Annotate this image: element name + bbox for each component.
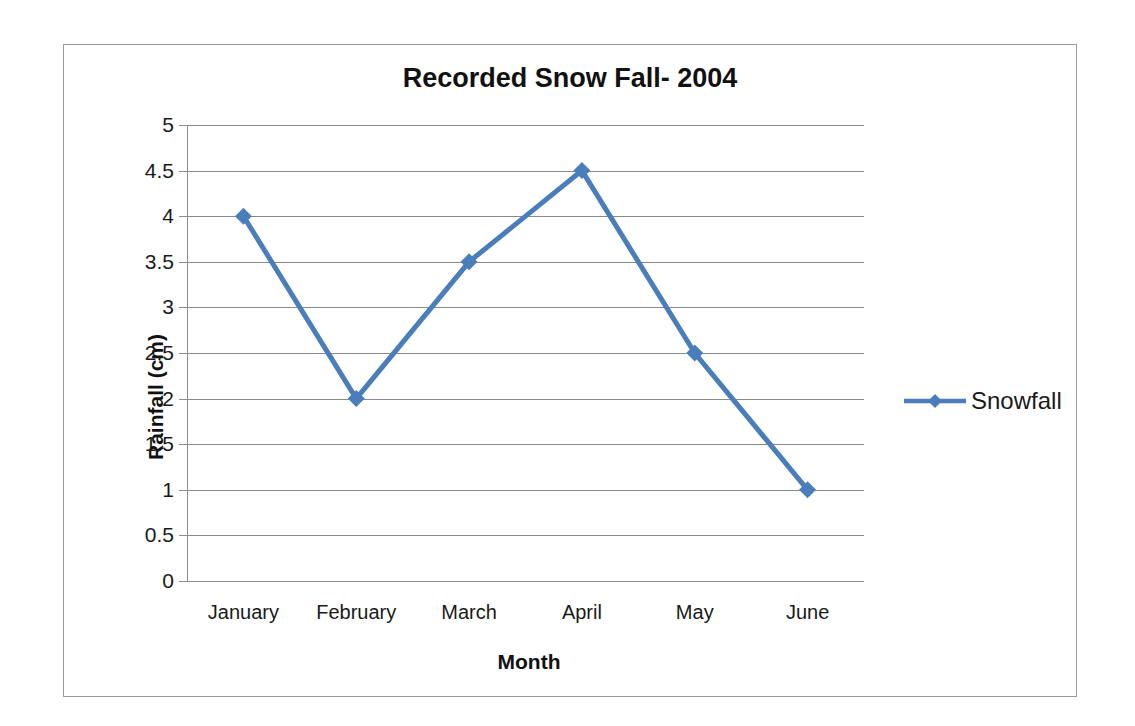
y-axis-tick-label: 1 (162, 478, 174, 502)
y-axis-tick (179, 171, 188, 172)
gridline (187, 490, 864, 491)
y-axis-tick-label: 4 (162, 204, 174, 228)
x-axis-tick-label: April (562, 601, 602, 624)
y-axis-tick (179, 125, 188, 126)
y-axis-tick (179, 535, 188, 536)
chart-page: { "chart_data": { "type": "line", "title… (0, 0, 1135, 726)
y-axis-tick-label: 4.5 (145, 159, 174, 183)
x-axis-line (187, 581, 864, 582)
y-axis-tick (179, 444, 188, 445)
gridline (187, 399, 864, 400)
gridline (187, 353, 864, 354)
y-axis-tick-label: 3.5 (145, 250, 174, 274)
x-axis-tick-label: February (316, 601, 396, 624)
legend-marker-snowfall (904, 391, 966, 411)
y-axis-tick-label: 0 (162, 569, 174, 593)
y-axis-tick (179, 581, 188, 582)
gridline (187, 125, 864, 126)
gridline (187, 307, 864, 308)
legend: Snowfall (904, 387, 1062, 415)
y-axis-tick-label: 3 (162, 295, 174, 319)
series-line (243, 171, 807, 490)
y-axis-tick-label: 0.5 (145, 523, 174, 547)
y-axis-tick-label: 2.5 (145, 341, 174, 365)
y-axis-tick (179, 307, 188, 308)
gridline (187, 216, 864, 217)
chart-title: Recorded Snow Fall- 2004 (64, 63, 1076, 94)
x-axis-tick-label: June (786, 601, 829, 624)
x-axis-tick-label: May (676, 601, 714, 624)
y-axis-tick-label: 2 (162, 387, 174, 411)
x-axis-title: Month (498, 650, 561, 674)
chart-frame: Recorded Snow Fall- 2004 Rainfall (cm) M… (63, 44, 1077, 697)
plot-area: 00.511.522.533.544.55 JanuaryFebruaryMar… (187, 125, 864, 581)
gridline (187, 535, 864, 536)
y-axis-tick (179, 353, 188, 354)
x-axis-tick-label: March (441, 601, 497, 624)
legend-label-snowfall: Snowfall (971, 387, 1062, 415)
y-axis-tick (179, 216, 188, 217)
gridline (187, 444, 864, 445)
gridline (187, 171, 864, 172)
y-axis-tick-label: 1.5 (145, 432, 174, 456)
y-axis-tick (179, 262, 188, 263)
y-axis-tick (179, 490, 188, 491)
y-axis-tick-label: 5 (162, 113, 174, 137)
y-axis-tick (179, 399, 188, 400)
gridline (187, 262, 864, 263)
x-axis-tick-label: January (208, 601, 279, 624)
legend-line-icon (904, 391, 966, 411)
